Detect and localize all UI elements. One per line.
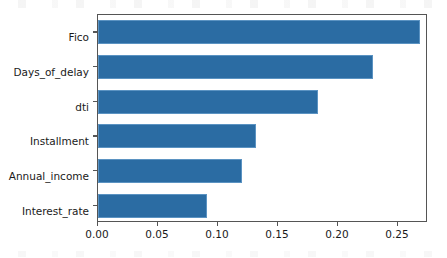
y-tick-label-text: Interest_rate	[22, 205, 89, 217]
y-tick-label-text: Annual_income	[9, 170, 89, 182]
x-tick-label-0-05: 0.05	[145, 228, 168, 240]
x-tick-mark	[157, 222, 158, 226]
x-tick-label-0-20: 0.20	[325, 228, 348, 240]
bar-row	[98, 159, 426, 183]
y-tick-label-text: dti	[75, 101, 89, 113]
bar-row	[98, 194, 426, 218]
x-tick-mark	[397, 222, 398, 226]
x-tick-label-0-15: 0.15	[265, 228, 288, 240]
x-tick-mark	[277, 222, 278, 226]
x-tick-mark	[217, 222, 218, 226]
bar-fico	[98, 20, 420, 44]
bar-interest_rate	[98, 194, 207, 218]
x-tick-label-0-25: 0.25	[385, 228, 408, 240]
bar-row	[98, 90, 426, 114]
plot-area	[98, 15, 426, 221]
scan-artifact-bottom	[0, 251, 447, 257]
plot-axes-frame	[97, 14, 427, 222]
bar-row	[98, 124, 426, 148]
bar-dti	[98, 90, 318, 114]
bar-annual_income	[98, 159, 242, 183]
x-tick-mark	[337, 222, 338, 226]
bar-row	[98, 55, 426, 79]
bar-installment	[98, 124, 256, 148]
x-tick-label-0-10: 0.10	[205, 228, 228, 240]
bar-row	[98, 20, 426, 44]
y-tick-label-text: Fico	[69, 31, 89, 43]
x-tick-label-0-00: 0.00	[85, 228, 108, 240]
y-tick-label-text: Installment	[30, 135, 89, 147]
y-tick-label-text: Days_of_delay	[13, 66, 89, 78]
bar-days_of_delay	[98, 55, 373, 79]
x-tick-mark	[97, 222, 98, 226]
scan-artifact-top	[0, 0, 447, 8]
figure-canvas: FicoDays_of_delaydtiInstallmentAnnual_in…	[0, 0, 447, 258]
